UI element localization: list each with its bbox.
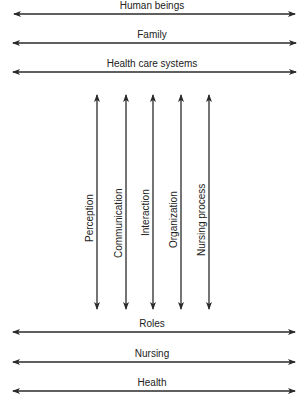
label-health-care-systems: Health care systems (0, 58, 304, 70)
label-perception: Perception (84, 194, 96, 242)
label-roles: Roles (0, 318, 304, 330)
label-human-beings: Human beings (0, 0, 304, 12)
label-health: Health (0, 377, 304, 389)
label-family: Family (0, 29, 304, 41)
label-organization: Organization (168, 191, 180, 248)
label-interaction: Interaction (140, 189, 152, 236)
label-nursing: Nursing (0, 348, 304, 360)
label-nursing-process: Nursing process (196, 184, 208, 256)
label-communication: Communication (113, 189, 125, 258)
